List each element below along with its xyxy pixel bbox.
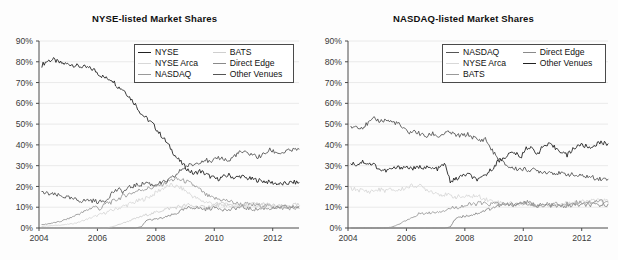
legend-swatch-bats: [213, 52, 226, 53]
legend-label-nyse-arca: NYSE Arca: [463, 58, 506, 69]
legend-item-nyse-arca[interactable]: NYSE Arca: [446, 58, 516, 69]
x-tick-label: 2008: [455, 233, 474, 243]
legend-label-bats: BATS: [230, 47, 252, 58]
legend-label-nyse-arca: NYSE Arca: [155, 58, 198, 69]
legend-swatch-nasdaq: [138, 74, 151, 75]
chart-panel-nyse-listed: NYSE-listed Market Shares 0%10%20%30%40%…: [0, 0, 309, 260]
y-tick-label: 90%: [325, 36, 343, 46]
y-tick-label: 0%: [21, 223, 34, 233]
legend-label-nasdaq: NASDAQ: [463, 47, 499, 58]
legend-label-direct-edge: Direct Edge: [540, 47, 585, 58]
legend-swatch-nasdaq: [446, 52, 459, 53]
legend-nyse-listed: NYSE BATS NYSE Arca Direct Edge NASDAQ: [134, 44, 294, 83]
legend-spacer: [523, 69, 602, 80]
y-tick-label: 90%: [16, 36, 34, 46]
legend-swatch-nyse-arca: [446, 63, 459, 64]
y-tick-label: 50%: [16, 119, 34, 129]
legend-item-other-venues[interactable]: Other Venues: [523, 58, 602, 69]
y-tick-label: 40%: [325, 140, 343, 150]
legend-item-nyse[interactable]: NYSE: [138, 47, 206, 58]
legend-item-bats[interactable]: BATS: [446, 69, 516, 80]
y-tick-label: 70%: [16, 78, 34, 88]
y-tick-label: 30%: [16, 161, 34, 171]
y-tick-label: 10%: [325, 202, 343, 212]
y-tick-label: 40%: [16, 140, 34, 150]
legend-swatch-nyse-arca: [138, 63, 151, 64]
x-tick-label: 2004: [29, 233, 48, 243]
x-tick-label: 2010: [514, 233, 533, 243]
plot-area-nyse-listed: 0%10%20%30%40%50%60%70%80%90%20042006200…: [0, 0, 309, 260]
x-tick-label: 2012: [572, 233, 591, 243]
series-line-other-venues: [42, 148, 299, 204]
x-tick-label: 2006: [88, 233, 107, 243]
chart-panel-nasdaq-listed: NASDAQ-listed Market Shares 0%10%20%30%4…: [309, 0, 618, 260]
legend-swatch-bats: [446, 74, 459, 75]
legend-label-direct-edge: Direct Edge: [230, 58, 275, 69]
plot-area-nasdaq-listed: 0%10%20%30%40%50%60%70%80%90%20042006200…: [309, 0, 618, 260]
legend-swatch-nyse: [138, 52, 151, 53]
y-tick-label: 60%: [325, 98, 343, 108]
x-tick-label: 2004: [338, 233, 357, 243]
y-tick-label: 10%: [16, 202, 34, 212]
legend-swatch-other-venues: [213, 74, 226, 75]
y-tick-label: 70%: [325, 78, 343, 88]
y-tick-label: 20%: [16, 182, 34, 192]
figure-root: NYSE-listed Market Shares 0%10%20%30%40%…: [0, 0, 618, 260]
series-line-direct-edge: [42, 205, 299, 228]
legend-label-other-venues: Other Venues: [540, 58, 593, 69]
legend-label-other-venues: Other Venues: [230, 69, 283, 80]
legend-swatch-direct-edge: [523, 52, 536, 53]
legend-item-direct-edge[interactable]: Direct Edge: [523, 47, 602, 58]
legend-item-bats[interactable]: BATS: [213, 47, 290, 58]
x-tick-label: 2006: [397, 233, 416, 243]
y-tick-label: 50%: [325, 119, 343, 129]
legend-label-nyse: NYSE: [155, 47, 178, 58]
legend-label-bats: BATS: [463, 69, 485, 80]
legend-item-nasdaq[interactable]: NASDAQ: [138, 69, 206, 80]
legend-label-nasdaq: NASDAQ: [155, 69, 191, 80]
y-tick-label: 80%: [16, 57, 34, 67]
x-tick-label: 2012: [263, 233, 282, 243]
y-tick-label: 60%: [16, 98, 34, 108]
legend-item-other-venues[interactable]: Other Venues: [213, 69, 290, 80]
y-tick-label: 80%: [325, 57, 343, 67]
legend-item-nyse-arca[interactable]: NYSE Arca: [138, 58, 206, 69]
y-tick-label: 30%: [325, 161, 343, 171]
x-tick-label: 2010: [205, 233, 224, 243]
legend-item-direct-edge[interactable]: Direct Edge: [213, 58, 290, 69]
legend-item-nasdaq[interactable]: NASDAQ: [446, 47, 516, 58]
legend-nasdaq-listed: NASDAQ Direct Edge NYSE Arca Other Venue…: [442, 44, 606, 83]
x-tick-label: 2008: [146, 233, 165, 243]
legend-swatch-direct-edge: [213, 63, 226, 64]
series-line-direct-edge: [351, 200, 608, 228]
legend-swatch-other-venues: [523, 63, 536, 64]
y-tick-label: 0%: [330, 223, 343, 233]
y-tick-label: 20%: [325, 182, 343, 192]
series-line-nasdaq: [351, 117, 608, 181]
